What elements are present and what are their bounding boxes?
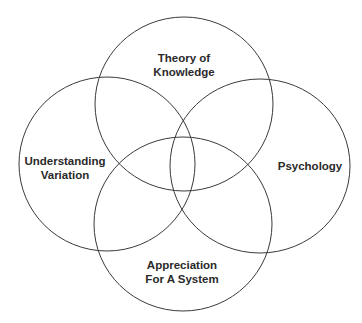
label-line: Theory of	[134, 51, 234, 65]
label-appreciation-for-a-system: Appreciation For A System	[132, 258, 232, 286]
label-psychology: Psychology	[260, 159, 360, 173]
label-line: Knowledge	[134, 65, 234, 79]
label-theory-of-knowledge: Theory of Knowledge	[134, 51, 234, 79]
circle-theory-of-knowledge	[95, 17, 273, 191]
label-line: Psychology	[260, 159, 360, 173]
label-line: Variation	[15, 168, 115, 182]
label-line: Understanding	[15, 154, 115, 168]
label-line: Appreciation	[132, 258, 232, 272]
label-understanding-variation: Understanding Variation	[15, 154, 115, 182]
label-line: For A System	[132, 272, 232, 286]
